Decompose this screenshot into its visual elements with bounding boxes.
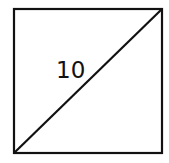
square-diagram: 10: [0, 0, 169, 163]
side-length-label: 10: [56, 57, 85, 83]
